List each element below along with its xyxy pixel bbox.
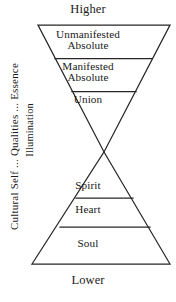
tier-label-unmanifested-absolute: UnmanifestedAbsolute xyxy=(18,29,158,52)
hourglass-diagram: Higher Lower UnmanifestedAbsolute Manife… xyxy=(0,0,176,302)
tier-label-union: Union xyxy=(18,94,158,105)
side-label-cultural-self-qualities-essence: Cultural Self ... Qualities ... Essence xyxy=(8,63,20,230)
tier-label-spirit: Spirit xyxy=(18,180,158,191)
pole-label-higher: Higher xyxy=(0,3,176,16)
side-label-illumination: Illumination xyxy=(24,103,35,157)
tier-label-heart: Heart xyxy=(18,204,158,215)
tier-label-soul: Soul xyxy=(18,238,158,249)
pole-label-lower: Lower xyxy=(0,274,176,287)
tier-label-manifested-absolute: ManifestedAbsolute xyxy=(18,61,158,84)
